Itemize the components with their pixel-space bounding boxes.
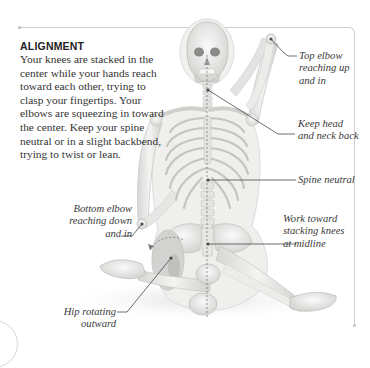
callout-line: Bottom elbow <box>50 203 132 215</box>
callout-head-neck: Keep head and neck back <box>298 118 359 143</box>
callout-line: at midline <box>283 238 344 250</box>
callout-line: Spine neutral <box>298 174 355 186</box>
dot-top-elbow <box>269 37 272 40</box>
sternum <box>204 116 211 164</box>
right-foot <box>290 292 336 311</box>
callout-line: and neck back <box>298 130 359 142</box>
callout-line: outward <box>40 318 116 330</box>
sacrum <box>201 228 214 256</box>
callout-line: Keep head <box>298 118 359 130</box>
callout-line: Work toward <box>283 213 344 225</box>
callout-line: Top elbow <box>299 50 350 62</box>
callout-top-elbow: Top elbow reaching up and in <box>299 50 350 87</box>
left-eye-socket <box>194 48 204 57</box>
dot-hip <box>169 256 172 259</box>
callout-hip: Hip rotating outward <box>40 306 116 331</box>
alignment-body: Your knees are stacked in the center whi… <box>20 53 170 162</box>
dot-head-neck <box>206 88 209 91</box>
left-foot <box>100 260 146 279</box>
dot-knees <box>206 242 209 245</box>
bottom-knee <box>189 293 217 315</box>
dot-bottom-elbow <box>140 222 143 225</box>
callout-line: and in <box>50 228 132 240</box>
top-knee <box>196 264 220 284</box>
callout-line: stacking knees <box>283 225 344 237</box>
callout-line: and in <box>299 75 350 87</box>
callout-knees: Work toward stacking knees at midline <box>283 213 344 250</box>
right-eye-socket <box>210 48 220 57</box>
callout-spine: Spine neutral <box>298 174 355 186</box>
alignment-intro: ALIGNMENT Your knees are stacked in the … <box>20 40 170 162</box>
alignment-heading: ALIGNMENT <box>20 40 170 52</box>
callout-bottom-elbow: Bottom elbow reaching down and in <box>50 203 132 240</box>
callout-line: reaching down <box>50 215 132 227</box>
lumbar-spine <box>201 182 214 225</box>
callout-line: reaching up <box>299 62 350 74</box>
dot-spine <box>206 178 209 181</box>
callout-line: Hip rotating <box>40 306 116 318</box>
cervical-spine <box>203 84 212 107</box>
